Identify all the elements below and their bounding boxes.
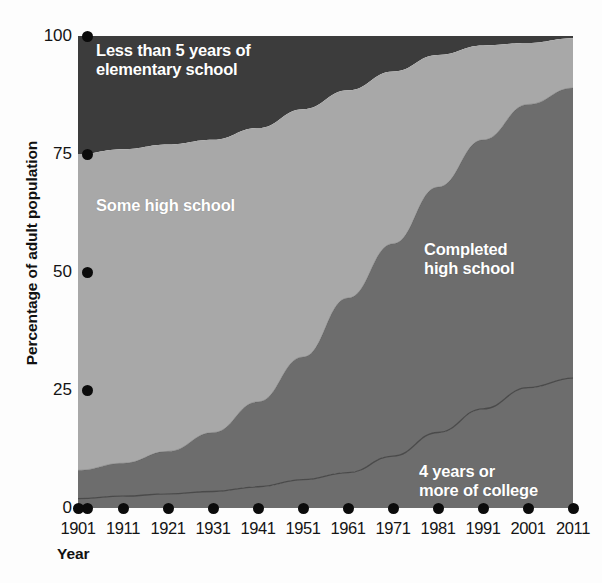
y-tick-label: 75 bbox=[14, 145, 72, 162]
band-label-less-than-5-years-elementary: Less than 5 years of elementary school bbox=[96, 41, 251, 79]
x-tick-label-1901: 1901 bbox=[55, 519, 101, 537]
x-tick-dot-1931 bbox=[208, 503, 219, 514]
y-tick-label: 50 bbox=[14, 263, 72, 280]
band-label-some-high-school: Some high school bbox=[96, 196, 235, 215]
x-tick-dot-1941 bbox=[253, 503, 264, 514]
y-tick-dot bbox=[82, 267, 93, 278]
y-tick-0: 0 bbox=[14, 508, 78, 509]
x-tick-dot-1971 bbox=[388, 503, 399, 514]
education-attainment-area-chart: Less than 5 years of elementary school S… bbox=[0, 0, 602, 583]
band-label-four-years-or-more-of-college: 4 years or more of college bbox=[419, 462, 538, 500]
y-tick-dot bbox=[82, 503, 93, 514]
y-tick-75: 75 bbox=[14, 154, 78, 155]
y-tick-100: 100 bbox=[14, 36, 78, 37]
x-axis-title: Year bbox=[57, 545, 89, 563]
y-tick-dot bbox=[82, 149, 93, 160]
y-tick-dot bbox=[82, 385, 93, 396]
x-tick-label-1931: 1931 bbox=[190, 519, 236, 537]
y-tick-50: 50 bbox=[14, 272, 78, 273]
x-tick-dot-1981 bbox=[433, 503, 444, 514]
y-tick-label: 100 bbox=[14, 27, 72, 44]
x-tick-label-2001: 2001 bbox=[505, 519, 551, 537]
x-tick-dot-1951 bbox=[298, 503, 309, 514]
x-tick-label-1921: 1921 bbox=[145, 519, 191, 537]
x-tick-label-1981: 1981 bbox=[415, 519, 461, 537]
y-tick-25: 25 bbox=[14, 390, 78, 391]
y-tick-dot bbox=[82, 31, 93, 42]
x-tick-dot-1901 bbox=[73, 503, 84, 514]
y-tick-label: 0 bbox=[14, 499, 72, 516]
x-tick-dot-1991 bbox=[478, 503, 489, 514]
x-tick-dot-2011 bbox=[568, 503, 579, 514]
x-tick-label-1941: 1941 bbox=[235, 519, 281, 537]
x-tick-label-1961: 1961 bbox=[325, 519, 371, 537]
x-tick-label-1971: 1971 bbox=[370, 519, 416, 537]
x-tick-dot-1911 bbox=[118, 503, 129, 514]
x-tick-label-1951: 1951 bbox=[280, 519, 326, 537]
x-tick-dot-1921 bbox=[163, 503, 174, 514]
x-tick-label-1911: 1911 bbox=[100, 519, 146, 537]
x-tick-label-2011: 2011 bbox=[550, 519, 596, 537]
x-tick-label-1991: 1991 bbox=[460, 519, 506, 537]
y-tick-label: 25 bbox=[14, 381, 72, 398]
x-tick-dot-1961 bbox=[343, 503, 354, 514]
band-label-completed-high-school: Completed high school bbox=[424, 240, 514, 278]
x-tick-dot-2001 bbox=[523, 503, 534, 514]
